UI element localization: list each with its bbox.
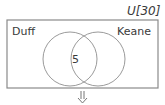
intersection-value: 5 — [72, 54, 79, 65]
down-arrow-icon — [78, 91, 87, 103]
set-a-label: Duff — [12, 26, 35, 37]
set-b-label: Keane — [117, 26, 151, 37]
circle-keane — [71, 32, 125, 86]
universe-label: U[30] — [127, 5, 160, 17]
circle-duff — [43, 32, 97, 86]
